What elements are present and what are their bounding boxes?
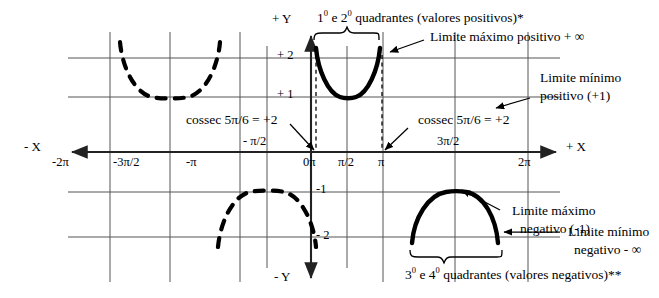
xtick-minus-2pi: -2π bbox=[52, 155, 69, 169]
xtick-2pi: 2π bbox=[518, 155, 531, 169]
leader-limite-max-negativo bbox=[462, 190, 500, 210]
note-limite-minimo-positivo-line2: positivo (+1) bbox=[540, 88, 610, 103]
cosecant-graph-figure: - X + X + Y - Y -2π -3π/2 -π - π/2 0π π/… bbox=[0, 0, 659, 298]
leader-limite-min-positivo bbox=[496, 98, 530, 108]
note-limite-minimo-negativo-line2: negativo - ∞ bbox=[574, 242, 641, 257]
leader-cossec-right bbox=[385, 128, 408, 150]
note-limite-maximo-positivo: Limite máximo positivo + ∞ bbox=[430, 29, 584, 44]
xtick-pi: π bbox=[378, 155, 384, 169]
note-quad-top-post: quadrantes (valores positivos)* bbox=[352, 10, 524, 25]
brace-bottom bbox=[410, 250, 502, 263]
xtick-0pi: 0π bbox=[303, 155, 316, 169]
ytick-minus-2: - 2 bbox=[316, 228, 330, 242]
note-quadrantes-negativos: 30 e 40 quadrantes (valores negativos)** bbox=[405, 266, 622, 282]
note-limite-minimo-negativo-line1: Limite mínimo bbox=[568, 224, 649, 239]
ytick-minus-1: -1 bbox=[316, 182, 326, 196]
curve-branch-solid-positive bbox=[316, 48, 380, 98]
xtick-minus-pi-2: - π/2 bbox=[243, 134, 266, 148]
xtick-minus-3pi-2: -3π/2 bbox=[113, 155, 139, 169]
note-cossec-left: cossec 5π/6 = +2 bbox=[186, 112, 277, 127]
note-limite-minimo-positivo-line1: Limite mínimo bbox=[540, 70, 621, 85]
note-quad-top-mid: e 2 bbox=[328, 10, 348, 25]
axis-label-negative-x: - X bbox=[24, 140, 41, 155]
xtick-pi-2: π/2 bbox=[338, 155, 354, 169]
xtick-3pi-2: 3π/2 bbox=[437, 134, 459, 148]
xtick-minus-pi: -π bbox=[186, 155, 196, 169]
note-quadrantes-positivos: 10 e 20 quadrantes (valores positivos)* bbox=[317, 9, 524, 25]
graph-canvas bbox=[0, 0, 659, 298]
axis-label-positive-x: + X bbox=[566, 140, 586, 155]
brace-top bbox=[314, 27, 379, 40]
axis-label-positive-y: + Y bbox=[272, 12, 292, 27]
asymptote-lines bbox=[316, 55, 382, 150]
note-quad-bot-mid: e 4 bbox=[416, 267, 436, 282]
note-limite-maximo-negativo-line1: Limite máximo bbox=[512, 203, 596, 218]
note-quad-bot-post: quadrantes (valores negativos)** bbox=[440, 267, 622, 282]
axis-label-negative-y: - Y bbox=[274, 270, 291, 285]
leader-limite-max-positivo bbox=[390, 40, 424, 52]
ytick-plus-2: + 2 bbox=[277, 48, 293, 62]
ytick-plus-1: + 1 bbox=[277, 87, 293, 101]
note-cossec-right: cossec 5π/6 = +2 bbox=[418, 112, 509, 127]
note-quad-bot-pre: 3 bbox=[405, 267, 412, 282]
note-quad-top-pre: 1 bbox=[317, 10, 324, 25]
